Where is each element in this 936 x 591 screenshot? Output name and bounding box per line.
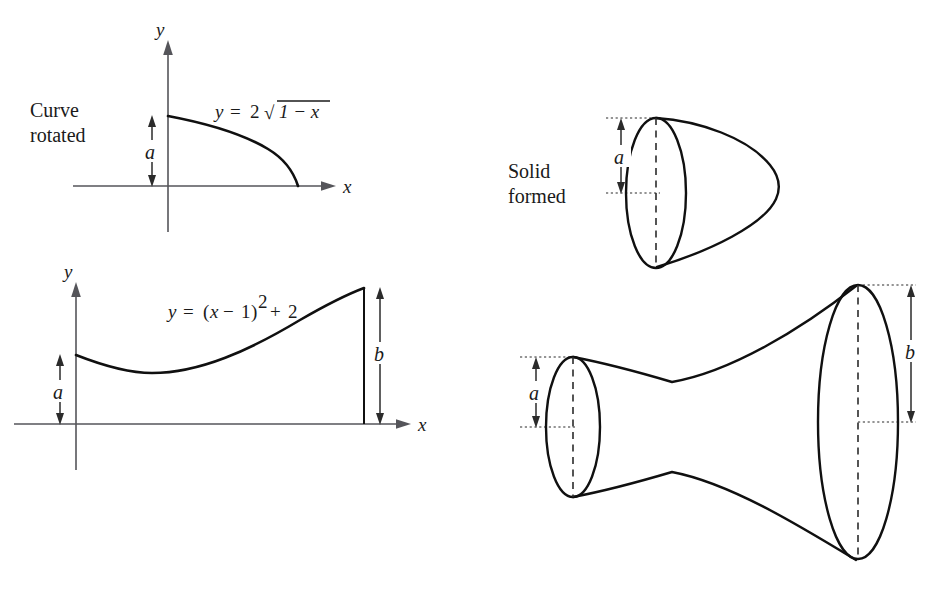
- dimension-a-label-solid-2: a: [529, 382, 539, 404]
- equation-panel-2-constant: 2: [288, 301, 298, 322]
- radical-sign-icon: √: [264, 102, 275, 123]
- dimension-b-label-panel-2: b: [374, 343, 384, 365]
- equation-panel-2-exponent: 2: [258, 291, 268, 312]
- equation-panel-1-lhs: y: [213, 101, 224, 122]
- figure-background: [0, 0, 936, 591]
- equation-panel-2-equals: =: [183, 301, 194, 322]
- solid-formed-line2: formed: [508, 185, 566, 207]
- equation-panel-2-lhs: y: [166, 301, 177, 322]
- equation-panel-2-one: 1: [241, 301, 251, 322]
- equation-panel-1: y = 2 √ 1 − x: [213, 101, 330, 123]
- equation-panel-2-plus: +: [270, 301, 281, 322]
- y-axis-label-panel-1: y: [154, 19, 165, 40]
- curve-rotated-line1: Curve: [30, 99, 79, 121]
- y-axis-label-panel-2: y: [62, 261, 73, 282]
- equation-panel-1-coefficient: 2: [250, 101, 260, 122]
- equation-panel-2-var: x: [209, 301, 219, 322]
- dimension-a-label-solid-1: a: [614, 146, 624, 168]
- solid-formed-line1: Solid: [508, 160, 550, 182]
- equation-panel-2-minus: −: [223, 301, 234, 322]
- dimension-b-label-solid-2: b: [905, 341, 915, 363]
- equation-panel-1-equals: =: [230, 101, 241, 122]
- dimension-a-label-panel-2: a: [53, 381, 63, 403]
- x-axis-label-panel-1: x: [342, 176, 352, 197]
- equation-panel-1-radicand: 1 − x: [279, 101, 320, 122]
- dimension-a-label-panel-1: a: [145, 141, 155, 163]
- equation-panel-2-close-paren: ): [251, 301, 257, 323]
- x-axis-label-panel-2: x: [417, 414, 427, 435]
- equation-panel-2-open-paren: (: [203, 301, 209, 323]
- curve-rotated-line2: rotated: [30, 124, 86, 146]
- volumes-of-revolution-figure: Curve rotated Solid formed y x a: [0, 0, 936, 591]
